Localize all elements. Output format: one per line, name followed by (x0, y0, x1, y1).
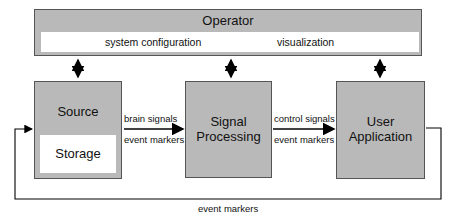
bci-system-diagram: Operator system configuration visualizat… (0, 0, 454, 214)
arrows (0, 0, 454, 214)
